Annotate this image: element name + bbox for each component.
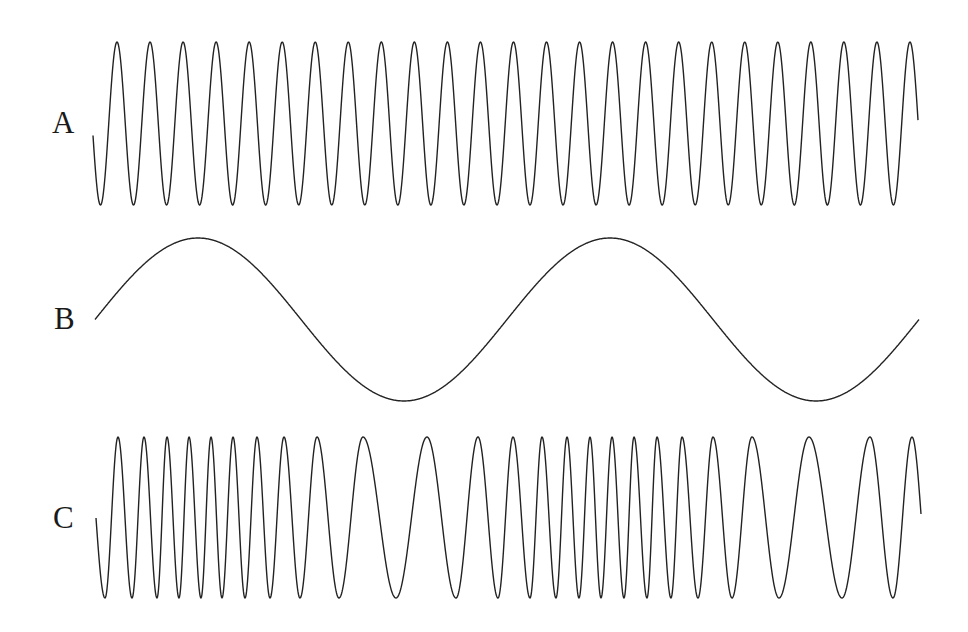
wave-b-modulating-signal xyxy=(95,238,919,401)
wave-c-fm-signal xyxy=(96,437,921,598)
waveform-canvas xyxy=(0,0,968,632)
wave-a-carrier xyxy=(93,42,918,205)
